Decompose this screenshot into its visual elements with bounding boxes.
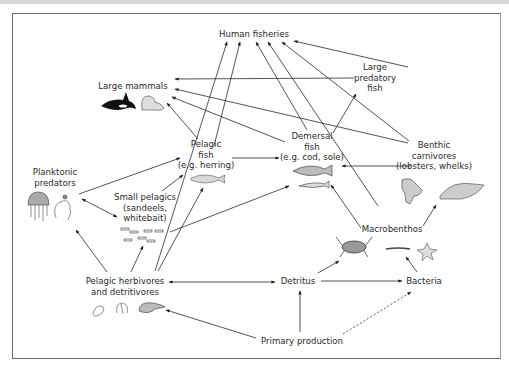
shrimp-icon — [139, 303, 165, 313]
starfish-icon — [417, 243, 437, 261]
jellyfish-icon — [28, 192, 49, 221]
herring-icon — [191, 175, 225, 183]
node-demersal-fish: Demersalfish(e.g. cod, sole) — [280, 131, 344, 163]
node-pelagic-fish: Pelagicfish(e.g. herring) — [178, 139, 235, 171]
sole-icon — [299, 181, 329, 188]
node-large-predatory-fish: Largepredatoryfish — [354, 62, 396, 94]
worm-icon — [386, 248, 410, 249]
ctenophore-icon — [55, 195, 71, 220]
cod-icon — [293, 165, 332, 176]
orca-icon — [101, 92, 136, 110]
node-macrobenthos: Macrobenthos — [362, 224, 423, 235]
node-bacteria: Bacteria — [406, 276, 442, 287]
sandeel-school-icon — [121, 228, 163, 242]
node-planktonic-predators: Planktonicpredators — [33, 167, 77, 188]
node-detritus: Detritus — [281, 276, 316, 287]
whelk-icon — [440, 183, 484, 199]
node-pelagic-herbivores: Pelagic herbivoresand detritivores — [86, 276, 165, 297]
seal-icon — [142, 96, 164, 110]
node-human-fisheries: Human fisheries — [219, 29, 289, 40]
node-benthic-carnivores: Benthiccarnivores(lobsters, whelks) — [396, 140, 472, 172]
node-small-pelagics: Small pelagics(sandeels,whitebait) — [114, 192, 176, 224]
node-large-mammals: Large mammals — [98, 81, 167, 92]
amphipod-icon — [117, 303, 128, 314]
food-web-arrows — [0, 0, 509, 376]
crab-icon — [336, 237, 372, 257]
copepod-icon — [93, 306, 104, 316]
lobster-icon — [402, 179, 422, 204]
node-primary-production: Primary production — [261, 336, 343, 347]
